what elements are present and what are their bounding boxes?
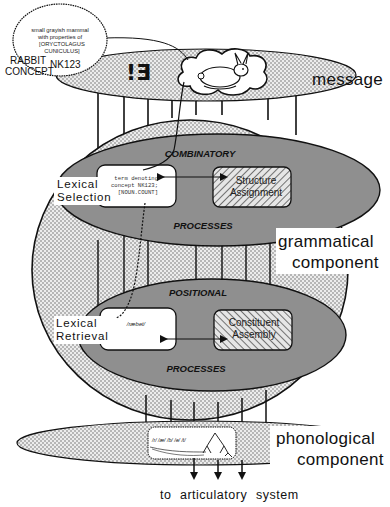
combinatory-footer: PROCESSES [173, 220, 233, 231]
lexical-entry-line-1: term denoting [114, 175, 158, 182]
output-word-articulatory: articulatory [180, 488, 247, 502]
combinatory-title: COMBINATORY [165, 148, 237, 159]
structure-assignment-line-2: Assignment [230, 187, 282, 198]
positional-footer: PROCESSES [166, 363, 226, 374]
concept-definition-line-1: small grayish mammal [31, 27, 89, 33]
output-word-to: to [160, 488, 171, 502]
lexical-selection-line-1: Lexical [57, 178, 98, 190]
lexical-entry-line-2: concept NK123; [111, 182, 158, 189]
rabbit-concept-line-2: CONCEPT [5, 66, 54, 77]
phonological-label-line-2: component [297, 450, 384, 469]
unique-existential-quantifier: !Ǝ [126, 60, 151, 85]
speech-production-diagram: COMBINATORY PROCESSES term denoting conc… [0, 0, 390, 507]
positional-title: POSITIONAL [169, 287, 227, 298]
lexical-selection-line-2: Selection [57, 191, 112, 203]
phonological-form-text: /ræbət/ [126, 321, 147, 327]
phonological-label-line-1: phonological [276, 429, 375, 448]
concept-definition-line-3: [ORYCTOLAGUS [39, 41, 85, 47]
concept-definition-line-2: with properties of [37, 34, 83, 40]
message-label: message [312, 70, 383, 89]
concept-id: NK123 [50, 59, 81, 70]
phoneme-segments: /r/ /æ/ /b/ /ə/ /t/ [151, 437, 186, 443]
phonological-encoding-box [148, 427, 236, 459]
concept-definition-line-4: CUNICULUS] [44, 48, 80, 54]
grammatical-label-line-2: component [292, 253, 379, 272]
constituent-assembly-line-1: Constituent [229, 317, 280, 328]
lexical-retrieval-box [100, 308, 176, 350]
constituent-assembly-line-2: Assembly [232, 329, 275, 340]
grammatical-label-line-1: grammatical [278, 232, 374, 251]
lexical-retrieval-line-1: Lexical [56, 317, 97, 329]
rabbit-concept-line-1: RABBIT [10, 55, 46, 66]
lexical-entry-line-3: [NOUN.COUNT] [118, 189, 158, 196]
lexical-retrieval-line-2: Retrieval [56, 330, 109, 342]
output-word-system: system [256, 488, 299, 502]
structure-assignment-line-1: Structure [236, 175, 277, 186]
